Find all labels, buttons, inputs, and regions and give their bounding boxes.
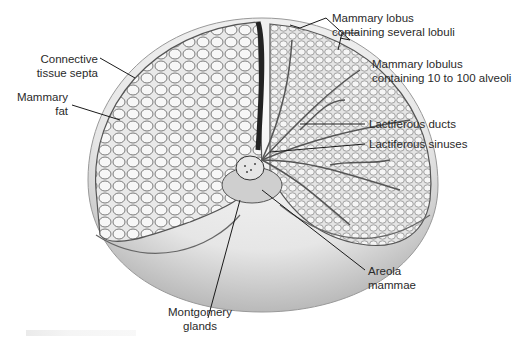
label-line: tissue septa bbox=[12, 66, 98, 80]
label-areola-mammae: Areola mammae bbox=[368, 264, 416, 292]
label-line: Montgomery bbox=[140, 305, 260, 319]
label-lactiferous-sinuses: Lactiferous sinuses bbox=[369, 137, 467, 151]
label-line: Areola bbox=[368, 264, 416, 278]
label-line: Mammary bbox=[12, 90, 68, 104]
label-mammary-fat: Mammary fat bbox=[12, 90, 68, 118]
label-line: Mammary lobus bbox=[332, 11, 455, 25]
label-mammary-lobulus: Mammary lobulus containing 10 to 100 alv… bbox=[372, 57, 511, 85]
label-line: Mammary lobulus bbox=[372, 57, 511, 71]
label-lactiferous-ducts: Lactiferous ducts bbox=[369, 117, 456, 131]
label-line: mammae bbox=[368, 278, 416, 292]
label-line: glands bbox=[140, 319, 260, 333]
anatomy-diagram: Mammary lobus containing several lobuli … bbox=[0, 0, 517, 342]
label-mammary-lobus: Mammary lobus containing several lobuli bbox=[332, 11, 455, 39]
label-line: containing several lobuli bbox=[332, 25, 455, 39]
label-connective-tissue-septa: Connective tissue septa bbox=[12, 52, 98, 80]
label-line: containing 10 to 100 alveoli bbox=[372, 71, 511, 85]
label-montgomery-glands: Montgomery glands bbox=[140, 305, 260, 333]
cropped-caption-fragment bbox=[26, 330, 136, 336]
label-line: fat bbox=[12, 104, 68, 118]
label-line: Connective bbox=[12, 52, 98, 66]
